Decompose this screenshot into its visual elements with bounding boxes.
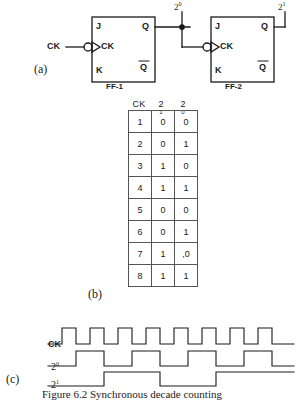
cell-q0: 0 xyxy=(175,199,198,221)
part-label-b: (b) xyxy=(88,287,102,302)
ff1-pin-qbar: Q xyxy=(140,62,147,72)
cell-ck: 2 xyxy=(129,133,152,155)
table-row: 3 1 0 xyxy=(129,155,198,177)
ff1-pin-ck: CK xyxy=(101,41,114,51)
cell-q0: 1 xyxy=(175,177,198,199)
waveform-q0 xyxy=(48,351,294,366)
cell-q1: 1 xyxy=(152,155,175,177)
ff2-pin-q: Q xyxy=(261,21,268,31)
part-label-a: (a) xyxy=(34,62,47,77)
waveform-ck xyxy=(48,328,294,344)
ff1-clock-bubble xyxy=(84,43,92,51)
truth-table: 1 0 0 2 0 1 3 1 0 4 1 1 xyxy=(128,110,198,287)
table-row: 7 1 ,0 xyxy=(129,243,198,265)
waveform-label-ck: CK xyxy=(48,339,61,349)
cell-q1: 1 xyxy=(152,177,175,199)
cell-q0: 0 xyxy=(175,111,198,133)
table-row: 5 0 0 xyxy=(129,199,198,221)
cell-q1: 1 xyxy=(152,265,175,287)
circuit-diagram xyxy=(0,0,298,100)
cell-q1: 0 xyxy=(152,221,175,243)
table-row: 4 1 1 xyxy=(129,177,198,199)
figure-caption: Figure 6.2 Synchronous decade counting xyxy=(42,388,222,400)
cell-q0: 1 xyxy=(175,133,198,155)
node-label-q0: 20 xyxy=(174,1,182,12)
ff2-pin-ck: CK xyxy=(220,41,233,51)
table-row: 1 0 0 xyxy=(129,111,198,133)
ff1-clock-triangle xyxy=(92,42,100,52)
timing-diagram xyxy=(0,318,298,393)
cell-ck: 5 xyxy=(129,199,152,221)
cell-ck: 8 xyxy=(129,265,152,287)
ff2-pin-j: J xyxy=(215,21,220,31)
table-row: 6 0 1 xyxy=(129,221,198,243)
ff1-pin-k: K xyxy=(96,65,103,75)
cell-q1: 0 xyxy=(152,133,175,155)
ff2-clock-triangle xyxy=(211,42,219,52)
cell-q0: 1 xyxy=(175,265,198,287)
cell-ck: 4 xyxy=(129,177,152,199)
waveform-label-q0: 20 xyxy=(51,361,59,372)
table-row: 2 0 1 xyxy=(129,133,198,155)
table-row: 8 1 1 xyxy=(129,265,198,287)
node-label-q1: 21 xyxy=(278,1,286,12)
cell-ck: 7 xyxy=(129,243,152,265)
cell-q1: 0 xyxy=(152,111,175,133)
ff2-pin-k: K xyxy=(215,65,222,75)
cell-q1: 1 xyxy=(152,243,175,265)
cell-q1: 0 xyxy=(152,199,175,221)
cell-ck: 6 xyxy=(129,221,152,243)
cell-q0: ,0 xyxy=(175,243,198,265)
cell-ck: 1 xyxy=(129,111,152,133)
cell-ck: 3 xyxy=(129,155,152,177)
ff2-clock-bubble xyxy=(203,43,211,51)
ff1-name: FF-1 xyxy=(106,82,123,91)
ff2-pin-qbar: Q xyxy=(259,62,266,72)
waveform-q1 xyxy=(48,372,294,386)
part-label-c: (c) xyxy=(6,372,19,387)
ff2-name: FF-2 xyxy=(225,82,242,91)
truth-table-wrap: 1 0 0 2 0 1 3 1 0 4 1 1 xyxy=(128,110,198,287)
ff1-pin-q: Q xyxy=(142,21,149,31)
ff1-pin-j: J xyxy=(96,21,101,31)
cell-q0: 0 xyxy=(175,155,198,177)
cell-q0: 1 xyxy=(175,221,198,243)
circuit-clock-input-label: CK xyxy=(47,41,60,51)
